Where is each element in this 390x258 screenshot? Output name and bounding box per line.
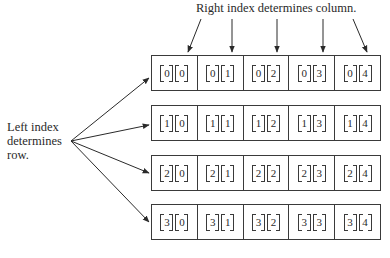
array-cell: 14 [335,106,380,140]
col-index: 0 [175,214,188,231]
col-index: 3 [313,165,326,182]
array-cell: 22 [244,156,290,190]
array-cell: 33 [289,205,335,239]
row-index: 2 [344,165,357,182]
column-arrow-4-icon [353,19,367,52]
row-index: 2 [252,165,265,182]
array-cell: 30 [152,205,198,239]
col-index: 1 [221,115,234,132]
col-index: 4 [359,165,372,182]
array-row-2: 20 21 22 23 24 [151,155,381,191]
array-row-0: 00 01 02 03 04 [151,55,381,91]
col-index: 4 [359,115,372,132]
array-cell: 24 [335,156,380,190]
row-arrow-3-icon [71,141,149,222]
row-arrow-1-icon [71,125,149,141]
row-index: 3 [298,214,311,231]
array-cell: 03 [289,56,335,90]
array-row-1: 10 11 12 13 14 [151,105,381,141]
col-index: 2 [267,165,280,182]
col-index: 1 [221,65,234,82]
array-cell: 23 [289,156,335,190]
col-index: 0 [175,165,188,182]
col-index: 3 [313,115,326,132]
row-index: 0 [160,65,173,82]
row-index: 1 [252,115,265,132]
array-cell: 12 [244,106,290,140]
row-index: 1 [344,115,357,132]
col-index: 1 [221,214,234,231]
array-cell: 20 [152,156,198,190]
col-index: 3 [313,65,326,82]
row-index: 1 [160,115,173,132]
col-index: 3 [313,214,326,231]
row-index: 0 [344,65,357,82]
row-index: 3 [344,214,357,231]
row-index: 0 [252,65,265,82]
array-cell: 10 [152,106,198,140]
row-arrows [71,78,149,222]
col-index: 1 [221,165,234,182]
row-index: 2 [160,165,173,182]
row-index: 2 [206,165,219,182]
row-index: 0 [298,65,311,82]
row-index: 0 [206,65,219,82]
array-row-3: 30 31 32 33 34 [151,204,381,240]
col-index: 2 [267,214,280,231]
row-arrow-0-icon [71,78,149,141]
row-index: 1 [298,115,311,132]
col-index: 2 [267,65,280,82]
column-arrow-0-icon [188,19,201,52]
array-cell: 01 [198,56,244,90]
array-cell: 11 [198,106,244,140]
row-arrow-2-icon [71,141,149,173]
row-index: 3 [160,214,173,231]
array-cell: 31 [198,205,244,239]
row-index: 3 [206,214,219,231]
col-index: 4 [359,65,372,82]
col-index: 4 [359,214,372,231]
array-cell: 00 [152,56,198,90]
row-index: 2 [298,165,311,182]
col-index: 0 [175,115,188,132]
array-cell: 13 [289,106,335,140]
array-cell: 32 [244,205,290,239]
col-index: 2 [267,115,280,132]
row-index: 1 [206,115,219,132]
array-cell: 21 [198,156,244,190]
column-arrows [188,19,367,52]
array-cell: 34 [335,205,380,239]
array-cell: 02 [244,56,290,90]
col-index: 0 [175,65,188,82]
array-cell: 04 [335,56,380,90]
row-index: 3 [252,214,265,231]
